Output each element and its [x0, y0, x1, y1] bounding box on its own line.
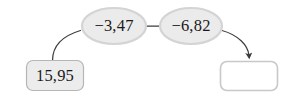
- connector-op2-to-output: [222, 31, 249, 56]
- operation-1-ellipse[interactable]: [82, 8, 146, 44]
- diagram-canvas: [0, 0, 287, 96]
- output-answer-box[interactable]: [221, 62, 278, 91]
- function-machine-diagram: −3,47 −6,82 15,95: [0, 0, 287, 96]
- connector-input-to-op1: [53, 31, 81, 61]
- operation-2-ellipse[interactable]: [160, 8, 222, 44]
- input-value-box[interactable]: [27, 61, 84, 91]
